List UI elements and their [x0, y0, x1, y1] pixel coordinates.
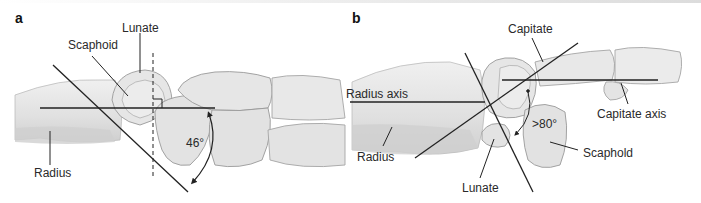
label-lunate-a: Lunate [122, 22, 159, 34]
label-radius-axis: Radius axis [346, 88, 408, 100]
wrist-diagram [0, 0, 701, 203]
label-capitate-b: Capitate [508, 23, 553, 35]
label-radius-a: Radius [34, 167, 71, 179]
label-angle-46: 46° [186, 137, 204, 149]
label-radius-b: Radius [357, 151, 394, 163]
panel-label-b: b [352, 11, 361, 25]
panel-label-a: a [15, 11, 23, 25]
panel-a-bones [15, 70, 345, 167]
label-lunate-b: Lunate [462, 182, 499, 194]
label-angle-80: >80° [532, 118, 557, 130]
label-capitate-axis: Capitate axis [597, 108, 666, 120]
label-scaphoid-b: Scaphold [583, 147, 633, 159]
label-scaphoid-a: Scaphoid [68, 39, 118, 51]
